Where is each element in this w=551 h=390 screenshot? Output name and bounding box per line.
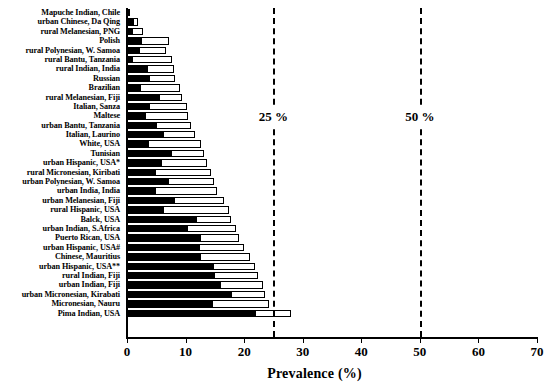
bar-segment-newly-diagnosed: [162, 159, 207, 166]
bar-row: [127, 280, 537, 289]
bar-row: [127, 139, 537, 148]
y-axis-label: urban Hispanic, USA#: [0, 243, 123, 252]
bar-row: [127, 93, 537, 102]
x-tick-label: 70: [531, 344, 544, 360]
bar-segment-newly-diagnosed: [221, 281, 263, 288]
reference-label: 25 %: [256, 108, 291, 126]
bar-segment-known: [127, 159, 162, 166]
stacked-bar: [127, 18, 138, 25]
y-axis-label: urban Chinese, Da Qing: [0, 17, 123, 26]
bar-segment-known: [127, 253, 201, 260]
x-tick-label: 60: [472, 344, 485, 360]
bar-segment-known: [127, 103, 150, 110]
bar-row: [127, 121, 537, 130]
bar-segment-newly-diagnosed: [133, 28, 144, 35]
stacked-bar: [127, 310, 291, 317]
y-axis-label: Brazilian: [0, 83, 123, 92]
y-axis-label: Puerto Rican, USA: [0, 233, 123, 242]
bar-segment-newly-diagnosed: [164, 206, 228, 213]
stacked-bar: [127, 253, 250, 260]
stacked-bar: [127, 281, 263, 288]
y-axis-label: rural Polynesian, W. Samoa: [0, 46, 123, 55]
x-tick-label: 40: [355, 344, 368, 360]
x-axis-title: Prevalence (%): [0, 366, 551, 382]
bar-row: [127, 27, 537, 36]
stacked-bar: [127, 263, 255, 270]
y-axis-label: urban Indian, Fiji: [0, 280, 123, 289]
y-axis-label: urban Micronesian, Kirabati: [0, 290, 123, 299]
y-axis-label: Polish: [0, 36, 123, 45]
stacked-bar: [127, 112, 188, 119]
bar-segment-known: [127, 197, 175, 204]
bar-segment-known: [127, 310, 256, 317]
bar-segment-known: [127, 300, 213, 307]
bar-segment-newly-diagnosed: [160, 94, 182, 101]
bar-segment-known: [127, 84, 141, 91]
bar-segment-known: [127, 65, 148, 72]
bar-segment-known: [127, 37, 142, 44]
bar-segment-known: [127, 122, 157, 129]
stacked-bar: [127, 122, 191, 129]
bar-row: [127, 74, 537, 83]
x-tick-label: 0: [124, 344, 131, 360]
bar-row: [127, 271, 537, 280]
x-tick-mark: [361, 337, 362, 343]
bar-segment-newly-diagnosed: [148, 65, 174, 72]
y-axis-label: Italian, Sanza: [0, 102, 123, 111]
bar-row: [127, 224, 537, 233]
bar-row: [127, 177, 537, 186]
y-axis-label: Maltese: [0, 111, 123, 120]
y-axis-label: Russian: [0, 74, 123, 83]
stacked-bar: [127, 28, 143, 35]
bar-segment-known: [127, 18, 134, 25]
y-axis-label: Balck, USA: [0, 215, 123, 224]
bar-row: [127, 64, 537, 73]
bar-row: [127, 243, 537, 252]
bar-segment-newly-diagnosed: [146, 112, 188, 119]
x-tick-label: 50: [413, 344, 426, 360]
y-axis-label: Italian, Laurino: [0, 130, 123, 139]
bar-segment-known: [127, 234, 201, 241]
bar-segment-newly-diagnosed: [157, 122, 191, 129]
plot-area: [127, 8, 537, 337]
stacked-bar: [127, 94, 182, 101]
bar-segment-newly-diagnosed: [215, 272, 258, 279]
stacked-bar: [127, 225, 236, 232]
bar-segment-newly-diagnosed: [197, 216, 231, 223]
y-axis-label: rural Melanesian, PNG: [0, 27, 123, 36]
y-axis-label: rural Bantu, Tanzania: [0, 55, 123, 64]
bar-segment-newly-diagnosed: [140, 47, 166, 54]
y-axis-label: White, USA: [0, 139, 123, 148]
bar-segment-newly-diagnosed: [201, 253, 250, 260]
bar-segment-newly-diagnosed: [188, 225, 236, 232]
bar-segment-newly-diagnosed: [129, 9, 130, 16]
bar-row: [127, 215, 537, 224]
y-axis-label: rural Melanesian, Fiji: [0, 93, 123, 102]
bar-rows: [127, 8, 537, 337]
bar-segment-known: [127, 131, 164, 138]
bar-row: [127, 83, 537, 92]
bar-segment-known: [127, 291, 232, 298]
x-tick-mark: [420, 337, 421, 343]
stacked-bar: [127, 56, 172, 63]
bar-segment-newly-diagnosed: [156, 169, 211, 176]
bar-segment-newly-diagnosed: [149, 140, 201, 147]
stacked-bar: [127, 300, 269, 307]
bar-row: [127, 196, 537, 205]
y-axis-label: urban Polynesian, W. Samoa: [0, 177, 123, 186]
x-tick-mark: [537, 337, 538, 343]
stacked-bar: [127, 216, 231, 223]
stacked-bar: [127, 244, 244, 251]
bar-segment-known: [127, 178, 169, 185]
bar-segment-known: [127, 187, 156, 194]
y-axis-label: Pima Indian, USA: [0, 309, 123, 318]
bar-segment-newly-diagnosed: [150, 103, 186, 110]
stacked-bar: [127, 65, 174, 72]
bar-row: [127, 309, 537, 318]
y-axis-label: urban Hispanic, USA**: [0, 262, 123, 271]
bar-segment-known: [127, 272, 215, 279]
reference-line-50pct: [420, 8, 422, 337]
stacked-bar: [127, 131, 195, 138]
bar-segment-newly-diagnosed: [232, 291, 265, 298]
bar-row: [127, 205, 537, 214]
